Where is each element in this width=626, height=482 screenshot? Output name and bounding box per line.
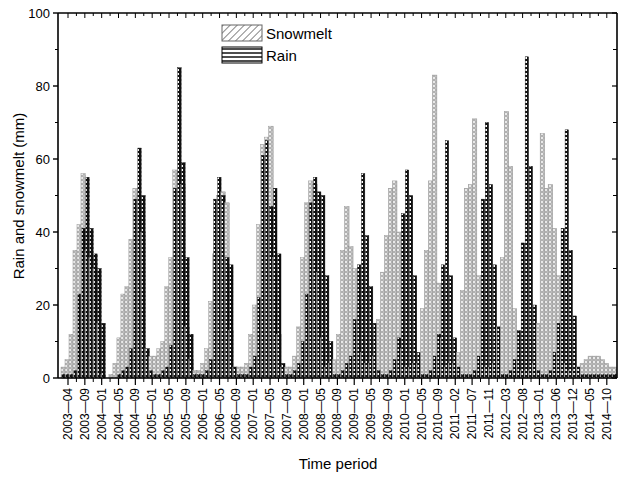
bar-rain [405,170,408,378]
legend-swatch-rain [222,47,262,63]
x-tick-label: 2004—09 [128,388,142,440]
x-tick-label: 2011—07 [465,388,479,439]
x-tick-label: 2005—05 [162,388,176,440]
bar-rain [409,196,412,379]
legend: Snowmelt Rain [222,25,333,64]
x-tick-label: 2014—10 [600,388,614,440]
bar-rain [489,185,492,378]
x-tick-label: 2013—12 [566,388,580,440]
bar-rain [278,254,281,378]
bars-group [61,57,617,378]
bar-rain [529,166,532,378]
bar-rain [401,214,404,378]
bar-rain [561,228,564,378]
x-tick-label: 2004—01 [95,388,109,440]
x-tick-label: 2005—09 [179,388,193,440]
x-tick-label: 2008—05 [314,388,328,440]
bar-rain [521,243,524,378]
y-tick-label: 0 [43,371,50,386]
y-tick-label: 60 [36,152,50,167]
x-tick-label: 2012—08 [516,388,530,440]
y-tick-label: 80 [36,79,50,94]
bar-rain [565,130,568,378]
x-tick-label: 2008—09 [330,388,344,440]
x-tick-label: 2003—09 [78,388,92,440]
bar-rain [413,276,416,378]
x-axis-label: Time period [299,455,378,472]
x-tick-label: 2010—01 [398,388,412,440]
bar-rain [445,141,448,378]
x-tick-label: 2011—11 [482,388,496,439]
y-tick-label: 40 [36,225,50,240]
x-tick-label: 2013—01 [532,388,546,440]
bar-rain [322,196,325,379]
x-tick-label: 2009—09 [381,388,395,440]
x-tick-label: 2007—09 [280,388,294,440]
x-tick-label: 2010—05 [415,388,429,440]
x-tick-label: 2007—05 [263,388,277,440]
bar-rain [326,276,329,378]
bar-rain [525,57,528,378]
x-tick-label: 2014—05 [583,388,597,440]
bar-rain [569,250,572,378]
y-axis-label: Rain and snowmelt (mm) [10,113,27,280]
x-tick-label: 2006—01 [196,388,210,440]
x-tick-label: 2013—06 [549,388,563,440]
x-tick-label: 2003—04 [61,388,75,440]
bar-rain [361,174,364,378]
bar-rain [230,265,233,378]
legend-label-rain: Rain [266,47,297,64]
x-tick-label: 2008—01 [297,388,311,440]
bar-rain [449,276,452,378]
x-tick-label: 2011—02 [448,388,462,439]
x-tick-label: 2007—01 [246,388,260,440]
bar-rain [441,265,444,378]
bar-rain [365,236,368,378]
bar-rain [485,123,488,379]
legend-label-snowmelt: Snowmelt [266,25,333,42]
bar-rain [102,323,105,378]
bar-rain [98,269,101,379]
x-tick-label: 2005—01 [145,388,159,440]
rain-snowmelt-bar-chart: 020406080100 2003—042003—092004—012004—0… [0,0,626,482]
x-tick-label: 2006—05 [213,388,227,440]
bar-rain [481,199,484,378]
x-tick-label: 2009—05 [364,388,378,440]
x-tick-label: 2012—03 [499,388,513,440]
y-tick-label: 100 [28,6,50,21]
x-tick-label: 2010—09 [431,388,445,440]
x-tick-label: 2006—09 [229,388,243,440]
x-tick-label: 2009—01 [347,388,361,440]
y-tick-label: 20 [36,298,50,313]
legend-swatch-snowmelt [222,25,262,41]
x-tick-label: 2004—05 [112,388,126,440]
